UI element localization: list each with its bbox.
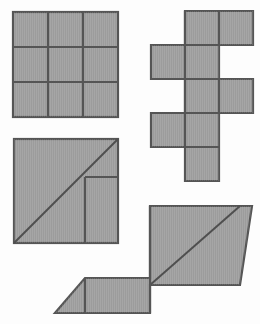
figure-square-with-diagonal [14, 139, 118, 243]
grid-outline [13, 12, 118, 117]
figure-canvas [0, 0, 260, 324]
figure-cube-net [151, 11, 253, 181]
geometry-illustration [0, 0, 260, 324]
figure-three-by-three-grid [13, 12, 118, 117]
net-outline [151, 11, 253, 181]
